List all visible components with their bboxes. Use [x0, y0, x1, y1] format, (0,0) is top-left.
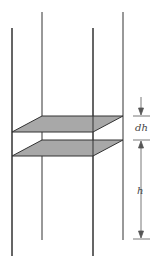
column-edges: [12, 12, 123, 256]
column-slab-diagram: dh h: [0, 0, 158, 258]
upper-slab: [12, 116, 123, 132]
dh-arrow-down-icon: [139, 108, 144, 115]
dimension-markers: [133, 97, 150, 239]
label-dh: dh: [135, 122, 148, 133]
h-arrow-down-icon: [139, 231, 144, 238]
lower-slab: [12, 140, 123, 156]
label-h: h: [137, 185, 143, 196]
